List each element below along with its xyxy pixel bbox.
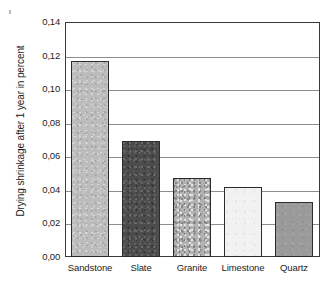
bar-granite[interactable]	[173, 178, 211, 257]
bar-slot-sandstone	[71, 22, 109, 257]
y-tick-label: 0,00	[26, 252, 60, 262]
bar-series	[65, 22, 320, 257]
y-tick-label: 0,10	[26, 84, 60, 94]
bar-slot-limestone	[224, 22, 262, 257]
bar-slot-granite	[173, 22, 211, 257]
y-tick-label: 0,12	[26, 51, 60, 61]
bar-slate[interactable]	[122, 141, 160, 257]
x-tick-label-quartz: Quartz	[262, 262, 326, 274]
y-tick-label: 0,04	[26, 185, 60, 195]
y-tick-label: 0,14	[26, 17, 60, 27]
scan-artifact-mark	[9, 10, 11, 14]
x-axis-tick-labels: Sandstone Slate Granite Limestone Quartz	[65, 262, 320, 278]
bar-quartz[interactable]	[275, 202, 313, 257]
bar-slot-quartz	[275, 22, 313, 257]
bar-limestone[interactable]	[224, 187, 262, 257]
y-tick-label: 0,06	[26, 152, 60, 162]
y-tick-label: 0,08	[26, 118, 60, 128]
bar-chart-figure: Drying shrinkage after 1 year in percent…	[0, 0, 332, 293]
y-axis-tick-labels: 0,14 0,12 0,10 0,08 0,06 0,04 0,02 0,00	[26, 22, 60, 257]
y-tick-label: 0,02	[26, 219, 60, 229]
bar-sandstone[interactable]	[71, 61, 109, 257]
bar-slot-slate	[122, 22, 160, 257]
